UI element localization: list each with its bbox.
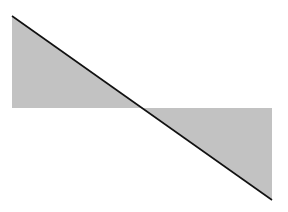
diagram-svg xyxy=(0,0,288,212)
diagram-canvas xyxy=(0,0,288,212)
